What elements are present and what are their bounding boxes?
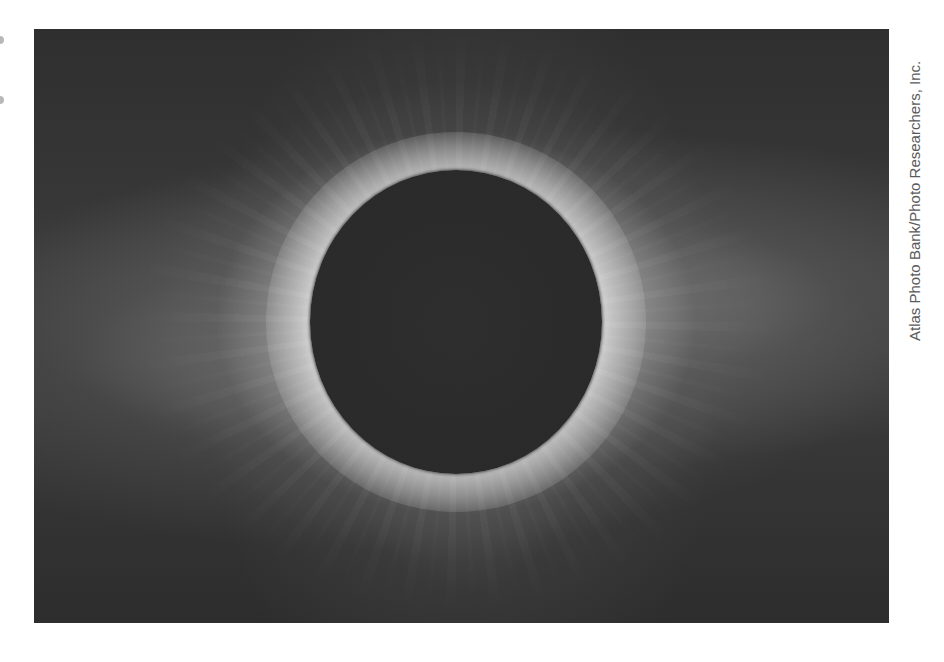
page-edge-mark [0, 36, 4, 44]
page-edge-mark [0, 96, 4, 104]
moon-disk [310, 170, 602, 474]
photo-credit-text: Atlas Photo Bank/Photo Researchers, Inc. [906, 61, 923, 341]
eclipse-photo [34, 29, 889, 623]
